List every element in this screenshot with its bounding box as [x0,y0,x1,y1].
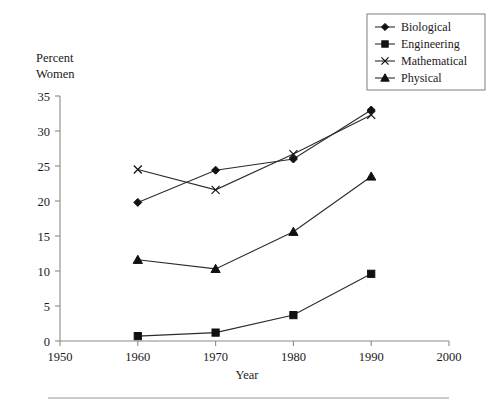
y-tick-label: 15 [38,230,51,244]
series-engineering [134,270,375,340]
marker-square [290,312,297,319]
y-axis-ticks: 05101520253035 [38,90,61,349]
series-line [138,274,371,336]
marker-triangle [367,172,376,180]
series-line [138,110,371,202]
series-physical [133,172,376,273]
marker-diamond [212,166,220,174]
chart-legend: BiologicalEngineeringMathematicalPhysica… [367,14,485,90]
x-tick-label: 2000 [437,350,462,364]
x-tick-label: 1990 [359,350,384,364]
y-axis-label: Percent Women [36,51,75,81]
marker-square [368,270,375,277]
y-tick-label: 0 [44,335,50,349]
x-tick-label: 1950 [48,350,73,364]
x-tick-label: 1980 [281,350,306,364]
marker-diamond [134,198,142,206]
marker-square [134,333,141,340]
marker-cross [134,166,142,174]
series-line [138,177,371,269]
chart-axes [60,96,449,341]
x-axis-title: Year [235,368,259,382]
legend-label: Mathematical [401,54,468,68]
marker-cross [212,186,220,194]
marker-square [212,329,219,336]
marker-triangle [289,227,298,235]
percent-women-line-chart: Percent Women 05101520253035 19501960197… [0,0,493,406]
y-tick-label: 20 [38,195,51,209]
y-tick-label: 30 [38,125,51,139]
series-line [138,115,371,190]
y-tick-label: 5 [44,300,50,314]
legend-label: Biological [401,20,452,34]
y-axis-label-line1: Percent [36,51,74,65]
x-tick-label: 1970 [203,350,228,364]
marker-square [382,41,388,47]
x-tick-label: 1960 [125,350,150,364]
y-tick-label: 35 [38,90,51,104]
y-tick-label: 10 [38,265,51,279]
x-axis-ticks: 195019601970198019902000 [48,341,462,364]
marker-triangle [133,255,142,263]
chart-series [133,106,376,340]
legend-label: Physical [401,71,442,85]
series-mathematical [134,111,375,194]
series-biological [134,106,375,206]
chart-page: Percent Women 05101520253035 19501960197… [0,0,493,406]
legend-label: Engineering [401,37,460,51]
y-axis-label-line2: Women [36,67,75,81]
y-tick-label: 25 [38,160,51,174]
